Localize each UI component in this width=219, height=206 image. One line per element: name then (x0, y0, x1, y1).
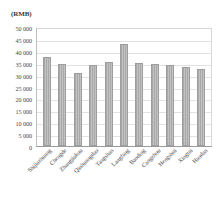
y-tick-label: 25 000 (16, 84, 32, 91)
y-tick-label: 15 000 (16, 108, 32, 115)
bar-slot (147, 29, 162, 146)
bar (43, 57, 51, 146)
x-tick-label-text: Handan (191, 147, 208, 164)
bar (182, 67, 190, 146)
bar (74, 73, 82, 146)
bar (105, 62, 113, 146)
bar-slot (163, 29, 178, 146)
chart-screenshot: (RMB) 50 00045 00040 00035 00030 00025 0… (0, 0, 219, 206)
x-tick-label-text: Xingtai (176, 147, 193, 164)
bar-slot (194, 29, 209, 146)
bar-series (37, 29, 211, 146)
y-axis-unit-label: (RMB) (11, 10, 32, 18)
bar-slot (70, 29, 85, 146)
bar (58, 64, 66, 146)
y-tick-label: 5 000 (19, 132, 32, 139)
y-tick-label: 20 000 (16, 96, 32, 103)
bar-slot (178, 29, 193, 146)
bar (120, 44, 128, 146)
bar-slot (101, 29, 116, 146)
y-tick-label: 50 000 (16, 25, 32, 32)
y-tick-label: 10 000 (16, 120, 32, 127)
bar (151, 64, 159, 146)
x-tick-label: Xingtai (177, 148, 194, 165)
bar-slot (39, 29, 54, 146)
y-tick-label: 0 (29, 144, 32, 151)
y-axis-tick-labels: 50 00045 00040 00035 00030 00025 00020 0… (0, 28, 34, 147)
bar-slot (54, 29, 69, 146)
y-tick-label: 35 000 (16, 60, 32, 67)
bar (89, 65, 97, 146)
bar (166, 65, 174, 146)
y-tick-label: 30 000 (16, 72, 32, 79)
bar-slot (85, 29, 100, 146)
bar (135, 63, 143, 146)
bar (197, 69, 205, 146)
x-axis-tick-labels: ShijiazhuangChengdeZhangjiakouQinhuangda… (36, 148, 212, 206)
y-tick-label: 45 000 (16, 36, 32, 43)
x-tick-label: Handan (192, 148, 209, 165)
y-tick-label: 40 000 (16, 48, 32, 55)
bar-slot (132, 29, 147, 146)
bar-slot (116, 29, 131, 146)
plot-area (36, 28, 212, 147)
